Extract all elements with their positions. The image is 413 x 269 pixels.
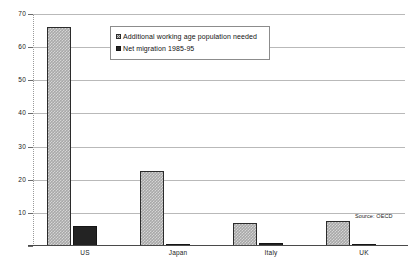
y-axis-tick-label: 40 (4, 110, 26, 117)
x-axis-label-italy: Italy (241, 250, 301, 257)
legend-swatch-hatched-gray-square-icon (116, 34, 121, 39)
legend-item-1: Net migration 1985-95 (116, 44, 264, 53)
chart-legend: Additional working age population needed… (110, 26, 270, 60)
y-axis-tick-label: 70 (4, 11, 26, 18)
source-note: Source: OECD (355, 213, 393, 219)
y-axis-tick-label: 20 (4, 177, 26, 184)
legend-swatch-solid-black-square-icon (116, 46, 121, 51)
bar-us-series-2 (73, 226, 97, 246)
bar-us-series-1 (47, 27, 71, 246)
y-axis-tick-label: 50 (4, 77, 26, 84)
y-axis-tick-label: 30 (4, 144, 26, 151)
bar-chart: 10203040506070 USJapanItalyUK Additional… (0, 0, 413, 269)
y-axis-tick-label: 10 (4, 210, 26, 217)
bar-japan-series-1 (140, 171, 164, 246)
legend-label-1: Net migration 1985-95 (123, 44, 194, 53)
x-axis-line (28, 245, 408, 246)
bar-italy-series-1 (233, 223, 257, 246)
bar-uk-series-1 (326, 221, 350, 246)
x-axis-label-uk: UK (334, 250, 394, 257)
legend-item-0: Additional working age population needed (116, 32, 264, 41)
y-axis-tick-mark (28, 246, 33, 247)
legend-label-0: Additional working age population needed (123, 32, 257, 41)
x-axis-label-us: US (55, 250, 115, 257)
y-axis-tick-label: 60 (4, 44, 26, 51)
x-axis-label-japan: Japan (148, 250, 208, 257)
